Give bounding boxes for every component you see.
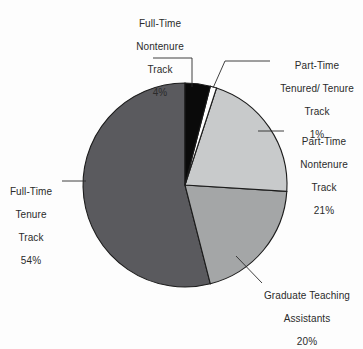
- callout-line-2: Nontenure: [286, 159, 362, 171]
- callout-line-3: Track: [286, 182, 362, 194]
- callout-line-1: Part-Time: [272, 60, 362, 72]
- callout-line-1: Part-Time: [286, 136, 362, 148]
- callout-line-1: Graduate Teaching: [252, 290, 362, 302]
- callout-full-time-nontenure-track: Full-Time Nontenure Track 4%: [108, 6, 212, 110]
- callout-line-1: Full-Time: [2, 186, 60, 198]
- callout-line-1: Full-Time: [108, 18, 212, 30]
- callout-line-3: Track: [272, 106, 362, 118]
- callout-percent: 4%: [108, 87, 212, 99]
- callout-line-2: Assistants: [252, 313, 362, 325]
- callout-part-time-nontenure-track: Part-Time Nontenure Track 21%: [286, 124, 362, 228]
- callout-line-3: Track: [2, 232, 60, 244]
- callout-graduate-teaching-assistants: Graduate Teaching Assistants 20%: [252, 278, 362, 349]
- callout-percent: 54%: [2, 255, 60, 267]
- callout-line-2: Nontenure: [108, 41, 212, 53]
- callout-line-3: Track: [108, 64, 212, 76]
- leader-line-part-time-tenured: [213, 61, 270, 88]
- callout-percent: 20%: [252, 336, 362, 348]
- callout-line-2: Tenure: [2, 209, 60, 221]
- callout-full-time-tenure-track: Full-Time Tenure Track 54%: [2, 174, 60, 278]
- callout-percent: 21%: [286, 205, 362, 217]
- callout-line-2: Tenured/ Tenure: [272, 83, 362, 95]
